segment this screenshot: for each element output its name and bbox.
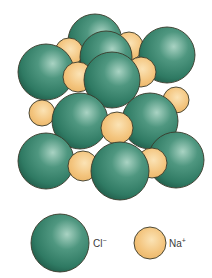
legend-label-cl: Cl− — [93, 237, 107, 249]
legend-chloride-ion-sphere — [31, 214, 89, 272]
legend-sodium-ion-sphere — [134, 227, 166, 259]
sodium-ion-sphere — [29, 100, 55, 126]
chloride-ion-sphere — [18, 133, 74, 189]
legend-label-na: Na+ — [169, 237, 186, 249]
lattice-spheres — [18, 14, 204, 200]
sodium-ion-sphere — [101, 112, 133, 144]
chloride-ion-sphere — [91, 142, 149, 200]
